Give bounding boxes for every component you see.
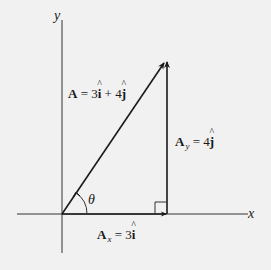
component-x-name: A (97, 227, 106, 242)
x-axis-label: x (248, 207, 254, 221)
component-x-subscript: x (107, 234, 111, 244)
component-y-name: A (175, 134, 184, 149)
component-x-label: Ax = 3i (97, 228, 135, 241)
component-y-equals: = 4 (189, 134, 209, 149)
component-y-subscript: y (185, 141, 189, 151)
component-y-label: Ay = 4j (175, 135, 214, 148)
component-x-equals: = 3 (111, 227, 131, 242)
angle-theta-label: θ (88, 193, 95, 207)
y-axis-label: y (54, 9, 60, 23)
vector-diagram: y x A = 3i + 4j Ay = 4j θ Ax = 3i (0, 0, 271, 270)
j-hat: j (210, 135, 214, 148)
vector-a-equals: = 3 (77, 86, 97, 101)
j-hat: j (122, 87, 126, 100)
i-hat: i (98, 87, 102, 100)
vector-a-label: A = 3i + 4j (68, 87, 126, 100)
i-hat: i (132, 228, 136, 241)
angle-arc (76, 193, 87, 214)
right-angle-marker (155, 202, 167, 214)
vector-a-name: A (68, 86, 77, 101)
vector-a-plus: + 4 (101, 86, 121, 101)
